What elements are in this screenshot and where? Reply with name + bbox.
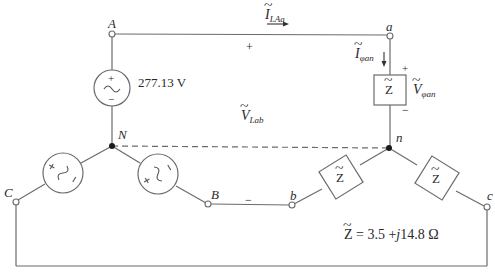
terminal-C xyxy=(13,199,19,205)
phase-voltage-plus: + xyxy=(402,63,408,74)
wire-Z-n-b xyxy=(360,148,389,165)
neutral-dashed-line xyxy=(112,146,389,148)
label-node-A: A xyxy=(108,17,116,30)
label-node-a: a xyxy=(386,20,393,33)
wire-sourceB-B xyxy=(176,186,206,203)
phase-voltage-minus: − xyxy=(402,104,409,116)
source-minus: − xyxy=(108,94,114,105)
label-node-C: C xyxy=(4,186,13,199)
phase-voltage-label: Vφan xyxy=(413,83,436,97)
arrow-down-icon xyxy=(382,61,387,67)
wire-N-sourceB xyxy=(112,146,140,163)
line-voltage-plus: + xyxy=(246,41,253,53)
terminal-A xyxy=(109,31,115,37)
impedance-equation: Z = 3.5 +j14.8 Ω xyxy=(344,228,439,242)
wire-sourceC-C xyxy=(18,184,45,200)
label-node-N: N xyxy=(118,128,127,141)
wire-Z-c xyxy=(456,191,484,206)
impedance-label-an: Z xyxy=(385,83,393,96)
sine-icon xyxy=(104,86,120,92)
line-voltage-minus: − xyxy=(245,194,252,206)
terminal-c xyxy=(484,204,490,210)
node-n-dot xyxy=(386,145,392,151)
line-current-label: ILAa xyxy=(265,8,285,22)
label-node-c: c xyxy=(487,189,493,202)
line-voltage-label: VLab xyxy=(241,109,264,123)
sine-icon-cn xyxy=(45,158,78,186)
label-node-n: n xyxy=(396,131,403,144)
sine-icon-bn xyxy=(140,161,173,189)
impedance-label-cn: Z xyxy=(432,172,440,185)
wire-N-sourceC xyxy=(81,146,112,163)
impedance-label-bn: Z xyxy=(336,171,344,184)
wire-b-Z xyxy=(294,189,322,204)
phase-current-label: Iφan xyxy=(355,47,374,61)
wire-A-a xyxy=(115,34,387,35)
label-node-B: B xyxy=(211,188,219,201)
label-node-b: b xyxy=(290,189,297,202)
wire-n-Z-c xyxy=(389,148,417,165)
node-N-dot xyxy=(109,143,115,149)
source-voltage-label: 277.13 V xyxy=(138,76,186,89)
source-plus: + xyxy=(108,73,114,84)
